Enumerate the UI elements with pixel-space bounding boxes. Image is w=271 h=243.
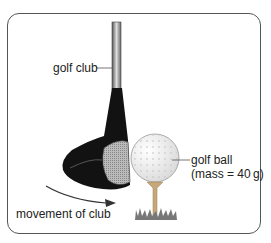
club-head	[62, 88, 130, 189]
club-shaft	[112, 22, 121, 90]
movement-label: movement of club	[16, 208, 111, 221]
golf-club-label: golf club	[53, 62, 98, 75]
ball-mass-label: (mass = 40 g)	[191, 168, 264, 181]
golf-ball	[131, 134, 179, 182]
golf-ball-label: golf ball	[191, 154, 232, 167]
